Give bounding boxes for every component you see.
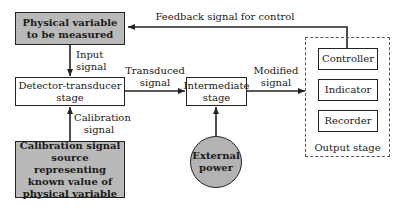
feedback-signal-label: Feedback signal for control (150, 11, 300, 23)
transduced-signal-label: Transducedsignal (124, 65, 186, 89)
edge-label: Calibration (74, 112, 131, 123)
node-label: Detector-transducer (18, 80, 121, 91)
node-label: Calibration signal (20, 140, 121, 151)
node-label: Indicator (325, 84, 371, 96)
node-label: External (192, 150, 239, 161)
indicator-node: Indicator (318, 79, 378, 101)
calibration-source-node: Calibration signalsource representingkno… (15, 141, 125, 198)
edge-label: Modified (254, 65, 299, 76)
controller-node: Controller (318, 48, 378, 70)
external-power-node: Externalpower (190, 136, 242, 188)
node-label: source representing (34, 152, 106, 175)
physical-variable-node: Physical variableto be measured (15, 12, 125, 45)
node-label: to be measured (27, 29, 114, 40)
modified-signal-label: Modifiedsignal (248, 65, 304, 89)
node-label: known value of (28, 176, 112, 187)
intermediate-stage-node: Intermediatestage (186, 77, 247, 106)
node-label: power (199, 162, 233, 173)
edge-label: Transduced (125, 65, 185, 76)
node-label: Controller (322, 53, 374, 65)
node-label: Recorder (325, 115, 372, 127)
input-signal-label: Inputsignal (76, 49, 106, 73)
node-label: physical variable (23, 188, 117, 199)
edge-label: signal (76, 61, 106, 72)
edge-label: signal (84, 124, 114, 135)
edge-label: signal (261, 77, 291, 88)
output-stage-label: Output stage (305, 142, 390, 154)
edge-label: Input (76, 49, 103, 60)
node-label: Physical variable (23, 17, 118, 28)
calibration-signal-label: Calibrationsignal (74, 112, 124, 136)
detector-transducer-node: Detector-transducerstage (15, 77, 125, 106)
node-label: stage (203, 92, 230, 103)
edge-label: signal (140, 77, 170, 88)
recorder-node: Recorder (318, 110, 378, 132)
node-label: Intermediate (184, 80, 250, 91)
node-label: stage (56, 92, 83, 103)
